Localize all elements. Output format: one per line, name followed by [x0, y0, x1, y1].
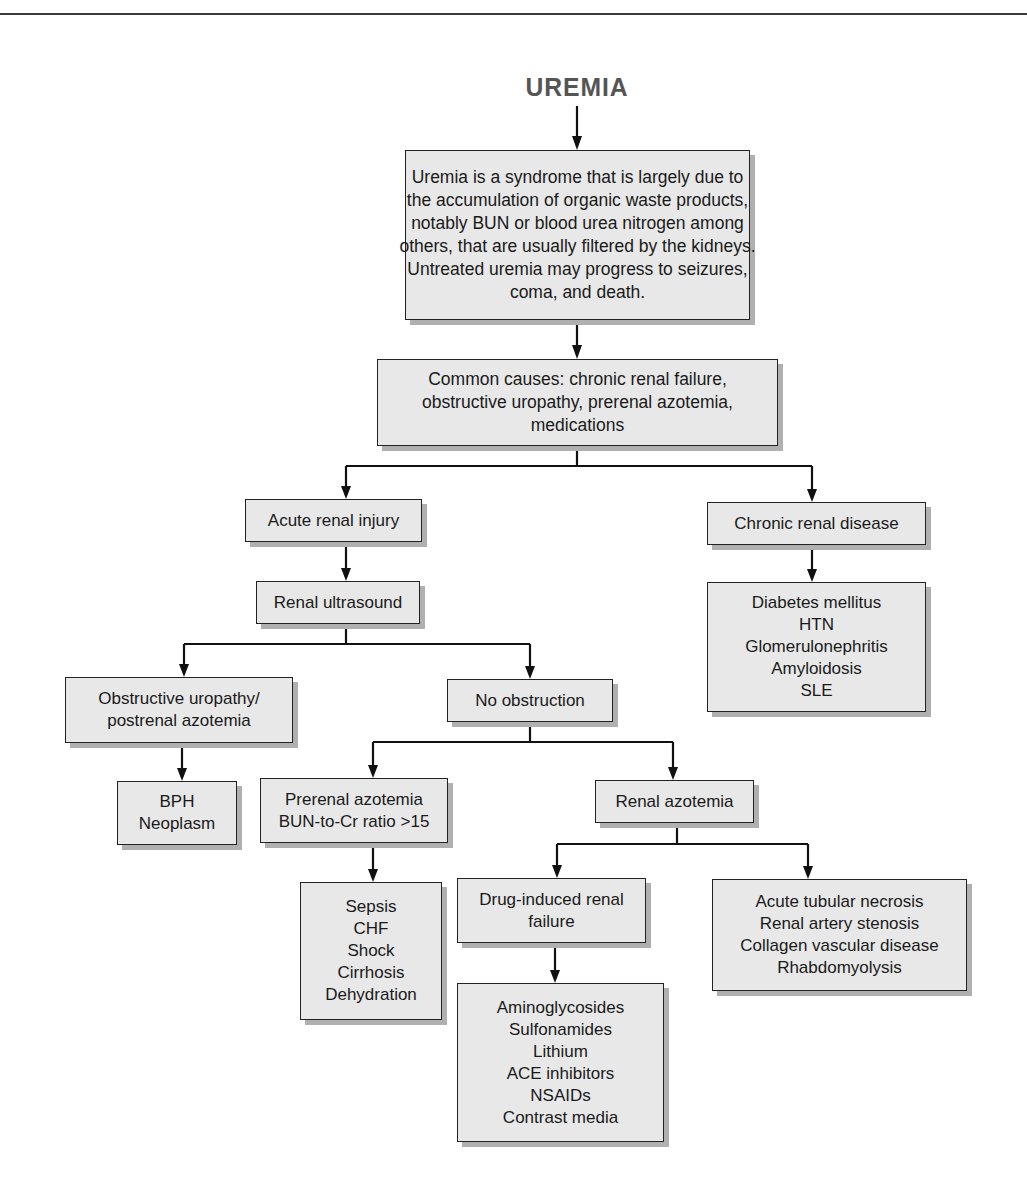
- drug-induced-line: failure: [528, 911, 574, 933]
- drug-list-box: Aminoglycosides Sulfonamides Lithium ACE…: [457, 983, 664, 1142]
- prerenal-cause-item: Sepsis: [345, 896, 396, 918]
- acute-renal-injury-label: Acute renal injury: [268, 510, 399, 532]
- drug-induced-line: Drug-induced renal: [479, 889, 624, 911]
- drug-item: ACE inhibitors: [507, 1063, 615, 1085]
- obstructive-cause-item: BPH: [160, 791, 195, 813]
- common-causes-box: Common causes: chronic renal failure, ob…: [377, 359, 778, 446]
- drug-item: Sulfonamides: [509, 1019, 612, 1041]
- drug-item: Aminoglycosides: [497, 997, 625, 1019]
- definition-line: coma, and death.: [510, 281, 645, 304]
- prerenal-causes-box: Sepsis CHF Shock Cirrhosis Dehydration: [300, 882, 442, 1020]
- no-obstruction-box: No obstruction: [447, 679, 613, 722]
- definition-line: notably BUN or blood urea nitrogen among: [411, 212, 744, 235]
- no-obstruction-label: No obstruction: [475, 690, 585, 712]
- common-causes-line: medications: [531, 414, 624, 437]
- drug-item: NSAIDs: [530, 1085, 590, 1107]
- prerenal-azotemia-line: Prerenal azotemia: [285, 789, 423, 811]
- common-causes-line: obstructive uropathy, prerenal azotemia,: [422, 391, 733, 414]
- acute-renal-injury-box: Acute renal injury: [245, 499, 422, 542]
- obstructive-uropathy-line: postrenal azotemia: [107, 710, 251, 732]
- definition-line: Untreated uremia may progress to seizure…: [407, 258, 747, 281]
- renal-ultrasound-label: Renal ultrasound: [274, 592, 403, 614]
- intrinsic-cause-item: Acute tubular necrosis: [755, 891, 923, 913]
- intrinsic-cause-item: Renal artery stenosis: [760, 913, 920, 935]
- drug-item: Lithium: [533, 1041, 588, 1063]
- prerenal-azotemia-line: BUN-to-Cr ratio >15: [279, 811, 430, 833]
- obstructive-cause-item: Neoplasm: [139, 813, 216, 835]
- prerenal-azotemia-box: Prerenal azotemia BUN-to-Cr ratio >15: [260, 778, 448, 843]
- drug-item: Contrast media: [503, 1107, 618, 1129]
- chronic-cause-item: Diabetes mellitus: [752, 592, 881, 614]
- obstructive-uropathy-box: Obstructive uropathy/ postrenal azotemia: [65, 677, 293, 743]
- prerenal-cause-item: Dehydration: [325, 984, 417, 1006]
- chronic-renal-disease-label: Chronic renal disease: [734, 513, 898, 535]
- obstructive-causes-box: BPH Neoplasm: [117, 781, 237, 845]
- chronic-cause-item: HTN: [799, 614, 834, 636]
- obstructive-uropathy-line: Obstructive uropathy/: [98, 688, 260, 710]
- definition-line: the accumulation of organic waste produc…: [407, 189, 748, 212]
- prerenal-cause-item: Shock: [347, 940, 394, 962]
- chronic-cause-item: Amyloidosis: [771, 658, 862, 680]
- intrinsic-cause-item: Rhabdomyolysis: [777, 957, 902, 979]
- chronic-renal-disease-box: Chronic renal disease: [707, 502, 926, 545]
- intrinsic-cause-item: Collagen vascular disease: [740, 935, 938, 957]
- intrinsic-causes-box: Acute tubular necrosis Renal artery sten…: [712, 879, 967, 991]
- chronic-cause-item: Glomerulonephritis: [745, 636, 888, 658]
- definition-box: Uremia is a syndrome that is largely due…: [405, 150, 750, 320]
- renal-azotemia-box: Renal azotemia: [595, 780, 754, 823]
- definition-line: others, that are usually filtered by the…: [399, 235, 755, 258]
- definition-line: Uremia is a syndrome that is largely due…: [412, 166, 744, 189]
- renal-ultrasound-box: Renal ultrasound: [256, 581, 420, 624]
- drug-induced-box: Drug-induced renal failure: [457, 878, 646, 943]
- chronic-cause-item: SLE: [800, 680, 832, 702]
- renal-azotemia-label: Renal azotemia: [615, 791, 733, 813]
- prerenal-cause-item: CHF: [354, 918, 389, 940]
- common-causes-line: Common causes: chronic renal failure,: [428, 368, 727, 391]
- chronic-causes-box: Diabetes mellitus HTN Glomerulonephritis…: [707, 582, 926, 712]
- prerenal-cause-item: Cirrhosis: [337, 962, 404, 984]
